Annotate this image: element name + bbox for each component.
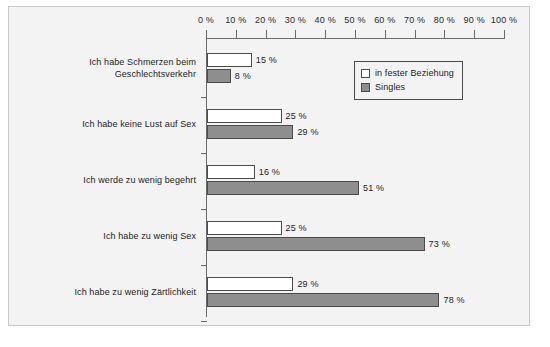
category-separator [201,321,207,322]
bar-value-in-fester-beziehung: 15 % [256,55,277,65]
axis-tick-40 [325,30,326,39]
category-separator [201,97,207,98]
category-label-line: Ich habe keine Lust auf Sex [21,118,196,130]
axis-tick-label-70: 70 % [404,15,425,25]
bar-singles[interactable] [207,125,293,139]
axis-tick-label-90: 90 % [464,15,485,25]
category-label-line: Ich werde zu wenig begehrt [21,174,196,186]
chart-frame: 0 %10 %20 %30 %40 %50 %60 %70 %80 %90 %1… [8,6,530,326]
axis-tick-60 [385,30,386,39]
category-separator [201,209,207,210]
axis-tick-label-80: 80 % [434,15,455,25]
bar-value-singles: 51 % [363,183,384,193]
bar-singles[interactable] [207,181,359,195]
axis-tick-10 [236,30,237,39]
bar-value-in-fester-beziehung: 25 % [286,111,307,121]
legend-swatch-in-fester-beziehung [361,69,370,78]
bar-value-singles: 78 % [443,295,464,305]
axis-tick-label-30: 30 % [285,15,306,25]
axis-tick-20 [266,30,267,39]
bar-in-fester-beziehung[interactable] [207,53,252,67]
axis-tick-label-40: 40 % [315,15,336,25]
bar-in-fester-beziehung[interactable] [207,277,293,291]
legend-swatch-singles [361,83,370,92]
category-label: Ich habe zu wenig Zärtlichkeit [21,286,196,298]
bar-in-fester-beziehung[interactable] [207,221,282,235]
bar-in-fester-beziehung[interactable] [207,109,282,123]
legend-label-in-fester-beziehung: in fester Beziehung [375,68,454,78]
category-label: Ich habe zu wenig Sex [21,230,196,242]
axis-tick-80 [444,30,445,39]
bar-value-singles: 73 % [429,239,450,249]
axis-tick-label-100: 100 % [491,15,518,25]
bar-value-in-fester-beziehung: 16 % [259,167,280,177]
axis-tick-70 [415,30,416,39]
chart-legend: in fester Beziehung Singles [354,61,463,100]
bar-singles[interactable] [207,69,231,83]
axis-tick-100 [504,30,505,39]
legend-item-singles[interactable]: Singles [361,80,454,94]
axis-tick-50 [355,30,356,39]
category-label-line: Ich habe zu wenig Zärtlichkeit [21,286,196,298]
bar-value-in-fester-beziehung: 25 % [286,223,307,233]
category-separator [201,153,207,154]
axis-tick-label-60: 60 % [374,15,395,25]
category-label: Ich werde zu wenig begehrt [21,174,196,186]
bar-value-in-fester-beziehung: 29 % [297,279,318,289]
bar-singles[interactable] [207,237,425,251]
axis-tick-90 [474,30,475,39]
axis-tick-label-20: 20 % [255,15,276,25]
axis-tick-label-0: 0 % [198,15,214,25]
category-label-line: Geschlechtsverkehr [21,68,196,80]
category-label-line: Ich habe zu wenig Sex [21,230,196,242]
legend-item-in-fester-beziehung[interactable]: in fester Beziehung [361,66,454,80]
axis-tick-label-10: 10 % [225,15,246,25]
bar-in-fester-beziehung[interactable] [207,165,255,179]
category-label-line: Ich habe Schmerzen beim [21,56,196,68]
category-separator [201,265,207,266]
bar-value-singles: 8 % [235,71,251,81]
axis-tick-0 [206,30,207,39]
category-label: Ich habe keine Lust auf Sex [21,118,196,130]
category-label: Ich habe Schmerzen beimGeschlechtsverkeh… [21,56,196,80]
axis-tick-label-50: 50 % [344,15,365,25]
bar-value-singles: 29 % [297,127,318,137]
bar-singles[interactable] [207,293,439,307]
axis-tick-30 [295,30,296,39]
legend-label-singles: Singles [375,82,405,92]
